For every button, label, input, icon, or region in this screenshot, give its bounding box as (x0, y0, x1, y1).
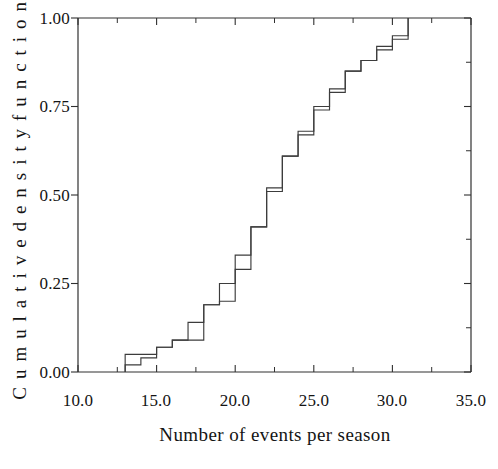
cdf-chart-figure: C u m u l a t i v e d e n s i t y f u n … (0, 0, 498, 469)
cdf-step-line-fitted-cdf (125, 18, 408, 372)
cdf-series-layer (125, 18, 408, 372)
axis-frame (78, 18, 471, 372)
plot-canvas (0, 0, 498, 469)
axis-ticks (71, 18, 471, 372)
